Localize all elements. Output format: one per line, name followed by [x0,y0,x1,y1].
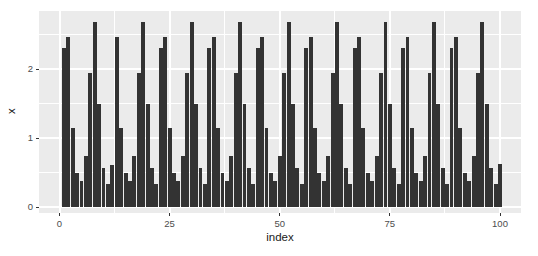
bar [256,48,260,207]
bar [388,104,392,207]
bar [62,48,66,207]
bar [260,37,264,207]
y-axis-title: x [5,108,17,114]
bar [322,181,326,207]
bar [384,22,388,207]
bar [291,104,295,207]
bar [450,48,454,207]
bar [357,37,361,207]
bar [84,156,88,207]
x-tick-label: 50 [274,219,285,229]
x-tick-label: 75 [385,219,396,229]
x-tick-label: 100 [492,219,508,229]
bar [498,164,502,207]
y-tick-mark [36,138,39,139]
bar [454,37,458,207]
bar [353,48,357,207]
x-tick-mark [169,213,170,216]
bar [102,168,106,207]
bar [97,104,101,207]
bar [163,37,167,207]
bar [212,37,216,207]
bar [115,37,119,207]
bar [234,73,238,207]
bar [243,104,247,207]
y-tick-label: 0 [13,202,33,212]
bar [141,22,145,207]
bar [128,181,132,207]
bar [480,22,484,207]
bar [419,181,423,207]
bar [339,104,343,207]
bar [75,173,79,207]
y-tick-mark [36,69,39,70]
bar [436,104,440,207]
bar [366,173,370,207]
bar [150,168,154,207]
bar [137,73,141,207]
bar [273,181,277,207]
bar [313,128,317,207]
bar [295,168,299,207]
bar [361,128,365,207]
plot-panel [39,11,521,213]
bar [326,156,330,207]
y-tick-mark [36,207,39,208]
bar [458,128,462,207]
bar [432,22,436,207]
bar [317,173,321,207]
bar [410,128,414,207]
bar [207,48,211,207]
bar [154,184,158,207]
bar [203,184,207,207]
x-tick-label: 25 [164,219,175,229]
bar [489,168,493,207]
major-gridline-x [59,11,61,213]
bar [485,104,489,207]
y-tick-label: 1 [13,133,33,143]
x-tick-label: 0 [57,219,62,229]
bar [88,73,92,207]
bar [401,48,405,207]
bar [379,73,383,207]
bar [406,37,410,207]
bar [251,184,255,207]
x-tick-mark [279,213,280,216]
bar [300,184,304,207]
bar [132,156,136,207]
bar [190,22,194,207]
bar [247,168,251,207]
bar [472,156,476,207]
bar [309,37,313,207]
bar [181,156,185,207]
bar [414,173,418,207]
bar [304,48,308,207]
x-tick-mark [389,213,390,216]
bar [238,22,242,207]
bar [423,156,427,207]
bar [229,156,233,207]
x-axis-title: index [39,231,521,243]
bar [397,184,401,207]
bar [282,73,286,207]
bar [199,168,203,207]
bar [71,128,75,207]
bar [375,156,379,207]
bar [287,22,291,207]
bar [176,181,180,207]
bar [146,104,150,207]
bar [370,181,374,207]
bar [428,73,432,207]
bar [441,168,445,207]
bar [185,73,189,207]
bar [93,22,97,207]
bar [265,128,269,207]
bar [476,73,480,207]
bar-chart-figure: 0255075100012 index x [0,0,538,256]
bar [392,168,396,207]
bar [66,37,70,207]
bar [168,128,172,207]
bar [344,168,348,207]
bar [172,173,176,207]
bar [194,104,198,207]
